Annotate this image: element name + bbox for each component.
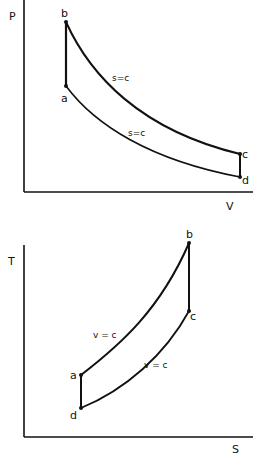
ts-curve-upper-label: v = c bbox=[93, 330, 117, 340]
pv-diagram: P V b a c d s=c s=c bbox=[9, 0, 253, 213]
ts-label-c: c bbox=[190, 310, 196, 323]
pv-label-a: a bbox=[61, 92, 68, 105]
ts-point-b bbox=[187, 241, 191, 245]
pv-curve-lower-label: s=c bbox=[128, 128, 145, 138]
pv-y-label: P bbox=[9, 10, 16, 23]
ts-label-d: d bbox=[70, 409, 77, 422]
cycle-diagrams: P V b a c d s=c s=c T S bbox=[0, 0, 257, 464]
ts-curve-ab bbox=[81, 243, 189, 375]
ts-point-a bbox=[79, 373, 83, 377]
ts-point-d bbox=[79, 406, 83, 410]
ts-curve-lower-label: v = c bbox=[144, 360, 168, 370]
ts-y-label: T bbox=[7, 255, 15, 268]
pv-curve-upper-label: s=c bbox=[112, 73, 129, 83]
pv-label-d: d bbox=[242, 174, 249, 187]
pv-x-label: V bbox=[226, 200, 234, 213]
ts-label-a: a bbox=[70, 369, 77, 382]
pv-label-c: c bbox=[242, 148, 248, 161]
ts-label-b: b bbox=[186, 228, 193, 241]
pv-point-b bbox=[64, 20, 68, 24]
ts-x-label: S bbox=[232, 443, 239, 456]
ts-diagram: T S b c a d v = c v = c bbox=[7, 228, 253, 456]
pv-curve-ad bbox=[66, 86, 240, 177]
pv-curve-bc bbox=[66, 22, 240, 154]
pv-point-a bbox=[64, 84, 68, 88]
pv-label-b: b bbox=[61, 7, 68, 20]
